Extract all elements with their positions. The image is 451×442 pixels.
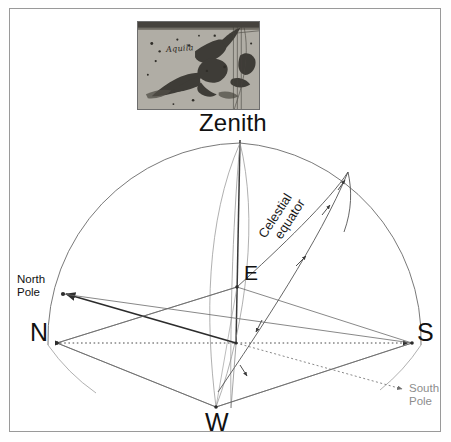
diagram-page: Aquila Zenith N S E W North Pole South P… bbox=[0, 0, 451, 442]
star-chart-image: Aquila bbox=[137, 21, 260, 110]
n-to-w bbox=[57, 343, 216, 407]
polar-connector-lines bbox=[57, 287, 412, 407]
marker-east bbox=[235, 285, 239, 289]
sphere-dome bbox=[48, 143, 421, 345]
ce-arrow-4 bbox=[240, 365, 247, 376]
south-pole-label-line1: South bbox=[409, 382, 439, 394]
constellation-name-label: Aquila bbox=[166, 43, 194, 54]
celestial-equator-cap bbox=[344, 172, 351, 232]
s-to-w bbox=[216, 343, 412, 407]
cardinal-label-east: E bbox=[244, 262, 258, 283]
sphere-lower-arcs bbox=[48, 345, 421, 393]
north-pole-label-line1: North bbox=[17, 273, 45, 285]
aquila-engraving bbox=[138, 22, 259, 109]
marker-north-pole bbox=[61, 292, 65, 296]
polar-axis bbox=[66, 294, 402, 389]
north-pole-label-line2: Pole bbox=[17, 286, 40, 298]
horizon-diamond bbox=[57, 287, 412, 407]
cardinal-label-west: W bbox=[205, 410, 229, 435]
dome-arc bbox=[48, 143, 421, 345]
horizon-plane bbox=[57, 287, 412, 407]
marker-south bbox=[410, 341, 414, 345]
north-pole-label: North Pole bbox=[17, 273, 45, 298]
vertex-markers bbox=[55, 285, 414, 409]
zenith-label: Zenith bbox=[199, 111, 267, 135]
south-pole-label: South Pole bbox=[409, 382, 439, 407]
ce-arrow-1 bbox=[296, 256, 306, 266]
meridian-left bbox=[210, 143, 240, 407]
cardinal-label-south: S bbox=[417, 320, 434, 345]
cardinal-label-north: N bbox=[30, 320, 48, 345]
marker-observer bbox=[234, 341, 237, 344]
marker-north bbox=[55, 341, 59, 345]
south-pole-label-line2: Pole bbox=[409, 395, 432, 407]
lower-arc-west bbox=[48, 345, 96, 393]
